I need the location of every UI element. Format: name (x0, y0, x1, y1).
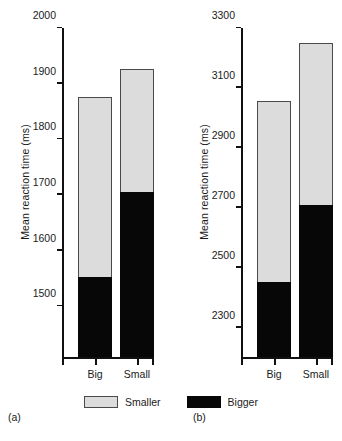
legend-swatch-bigger-icon (187, 396, 221, 408)
legend-item-bigger: Bigger (187, 396, 258, 408)
legend: Smaller Bigger (0, 396, 342, 408)
y-axis-tick-label: 2900 (212, 129, 235, 141)
y-axis-tick (236, 266, 241, 268)
bar-big (78, 97, 112, 357)
x-axis-end-tick (152, 359, 154, 365)
bar-segment-bigger (78, 277, 112, 358)
y-axis-tick-label: 2500 (212, 249, 235, 261)
y-axis-tick (236, 86, 241, 88)
y-axis-tick (57, 138, 62, 140)
bar-segment-bigger (257, 282, 291, 357)
panel-b: Mean reaction time (ms) 2300250027002900… (171, 0, 342, 441)
y-axis-tick-label: 2300 (212, 309, 235, 321)
x-axis-tick (95, 359, 97, 365)
plot-area-a: 150016001700180019002000BigSmall (62, 28, 154, 359)
y-axis-label-a: Mean reaction time (ms) (19, 87, 31, 277)
plot-area-b: 230025002700290031003300BigSmall (241, 28, 333, 359)
y-axis-tick-label: 3100 (212, 69, 235, 81)
y-axis-label-b: Mean reaction time (ms) (198, 87, 210, 277)
legend-swatch-smaller-icon (84, 396, 118, 408)
x-axis-line-a (62, 357, 154, 359)
x-axis-tick (137, 359, 139, 365)
x-axis-tick (274, 359, 276, 365)
y-axis-tick (236, 206, 241, 208)
y-axis-tick (57, 27, 62, 29)
bar-segment-bigger (299, 205, 333, 357)
legend-item-smaller: Smaller (84, 396, 161, 408)
panel-a: Mean reaction time (ms) 1500160017001800… (0, 0, 171, 441)
bar-big (257, 101, 291, 357)
y-axis-tick-label: 1600 (33, 232, 56, 244)
legend-label-smaller: Smaller (125, 396, 161, 408)
panel-caption-a: (a) (8, 411, 21, 423)
y-axis-tick-label: 2700 (212, 189, 235, 201)
bar-segment-bigger (120, 192, 154, 357)
y-axis-tick-label: 1800 (33, 120, 56, 132)
x-axis-end-tick (62, 359, 64, 365)
bar-small (299, 43, 333, 358)
y-axis-tick (236, 27, 241, 29)
y-axis-tick (236, 326, 241, 328)
x-axis-tick (316, 359, 318, 365)
y-axis-tick (57, 193, 62, 195)
y-axis-tick (57, 249, 62, 251)
x-axis-tick-label-small: Small (286, 368, 342, 380)
legend-label-bigger: Bigger (228, 396, 258, 408)
y-axis-tick-label: 1700 (33, 176, 56, 188)
bar-small (120, 69, 154, 357)
y-axis-tick-label: 1900 (33, 65, 56, 77)
y-axis-tick (236, 146, 241, 148)
y-axis-tick (57, 82, 62, 84)
y-axis-tick (57, 305, 62, 307)
x-axis-end-tick (241, 359, 243, 365)
x-axis-tick-label-small: Small (107, 368, 167, 380)
y-axis-line-b (241, 28, 243, 359)
y-axis-tick-label: 2000 (33, 9, 56, 21)
y-axis-tick-label: 3300 (212, 9, 235, 21)
panel-caption-b: (b) (193, 411, 206, 423)
x-axis-end-tick (331, 359, 333, 365)
figure-stacked-bar-charts: Mean reaction time (ms) 1500160017001800… (0, 0, 342, 441)
x-axis-line-b (241, 357, 333, 359)
y-axis-tick-label: 1500 (33, 287, 56, 299)
y-axis-line-a (62, 28, 64, 359)
